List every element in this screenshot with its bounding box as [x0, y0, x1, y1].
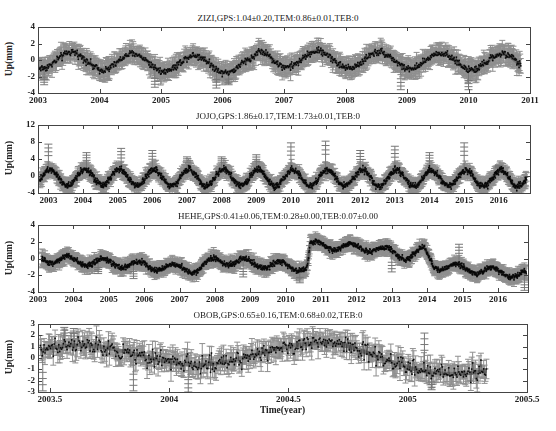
- x-tick-label: 2005.5: [515, 394, 540, 404]
- y-tick-label: 1: [15, 341, 35, 351]
- y-tick-label: -3: [15, 386, 35, 396]
- y-tick-label: 2: [15, 329, 35, 339]
- y-tick-label: 3: [15, 318, 35, 328]
- plot-area: [0, 0, 556, 431]
- y-tick-label: -2: [15, 375, 35, 385]
- x-tick-label: 2004: [160, 394, 178, 404]
- x-tick-label: 2004.5: [276, 394, 301, 404]
- y-tick-label: 0: [15, 352, 35, 362]
- x-axis-label: Time(year): [260, 405, 305, 415]
- y-tick-label: -1: [15, 363, 35, 373]
- x-tick-label: 2005: [399, 394, 417, 404]
- x-tick-label: 2003.5: [38, 394, 63, 404]
